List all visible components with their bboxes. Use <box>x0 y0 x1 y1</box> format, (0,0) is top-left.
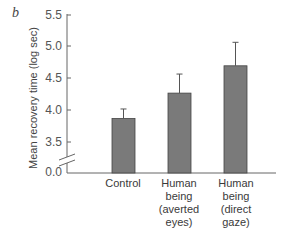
bar <box>224 66 247 173</box>
bars-group <box>112 42 247 173</box>
y-tick-label: 5.0 <box>45 39 62 53</box>
y-axis-label: Mean recovery time (log sec) <box>27 27 39 169</box>
y-tick-label: 3.5 <box>45 135 62 149</box>
y-tick-label: 0.0 <box>45 165 62 179</box>
y-ticks <box>67 15 71 142</box>
x-category-label-direct: Human being (direct gaze) <box>208 177 264 229</box>
y-tick-label: 4.0 <box>45 103 62 117</box>
x-category-label-averted: Human being (averted eyes) <box>151 177 207 229</box>
y-tick-label: 4.5 <box>45 71 62 85</box>
y-tick-label: 5.5 <box>45 8 62 22</box>
x-category-label-control: Control <box>95 177 151 190</box>
bar <box>112 119 135 173</box>
bar <box>168 93 191 173</box>
